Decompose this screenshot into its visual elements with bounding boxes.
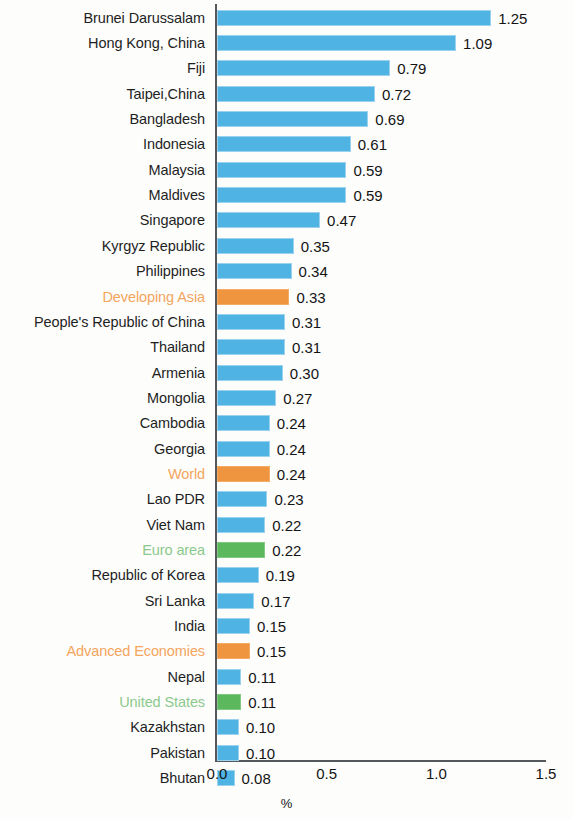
- bar: [217, 390, 276, 406]
- bar: [217, 212, 320, 228]
- chart-row: United States0.11: [0, 689, 573, 714]
- bar: [217, 643, 250, 659]
- bar-value-label: 0.59: [353, 188, 382, 203]
- bar-value-label: 0.17: [261, 593, 290, 608]
- category-label: Sri Lanka: [145, 593, 205, 608]
- chart-row: Brunei Darussalam1.25: [0, 5, 573, 30]
- category-label: People's Republic of China: [34, 315, 205, 330]
- bar: [217, 35, 456, 51]
- category-label: Republic of Korea: [91, 568, 205, 583]
- bar: [217, 441, 270, 457]
- category-label: Cambodia: [140, 416, 205, 431]
- bar: [217, 263, 292, 279]
- bar-value-label: 0.72: [382, 86, 411, 101]
- bar-value-label: 0.19: [266, 568, 295, 583]
- chart-row: Indonesia0.61: [0, 132, 573, 157]
- bar-value-label: 0.33: [296, 289, 325, 304]
- category-label: United States: [119, 695, 205, 710]
- chart-row: Armenia0.30: [0, 360, 573, 385]
- bar: [217, 86, 375, 102]
- bar-value-label: 0.47: [327, 213, 356, 228]
- bar-value-label: 0.15: [257, 619, 286, 634]
- bar: [217, 111, 368, 127]
- bar-value-label: 0.69: [375, 112, 404, 127]
- category-label: Thailand: [150, 340, 205, 355]
- bar-value-label: 0.22: [272, 543, 301, 558]
- category-label: Brunei Darussalam: [83, 10, 205, 25]
- bar: [217, 669, 241, 685]
- bar-value-label: 0.11: [248, 669, 276, 684]
- bar: [217, 719, 239, 735]
- category-label: Kyrgyz Republic: [102, 239, 205, 254]
- bar-value-label: 0.24: [277, 416, 306, 431]
- category-label: Nepal: [168, 670, 205, 685]
- bar: [217, 694, 241, 710]
- bar: [217, 10, 491, 26]
- bar: [217, 618, 250, 634]
- bar: [217, 187, 346, 203]
- bar-value-label: 0.27: [283, 390, 312, 405]
- bar-value-label: 0.10: [246, 720, 275, 735]
- chart-row: Euro area0.22: [0, 537, 573, 562]
- category-label: Pakistan: [150, 746, 205, 761]
- bar: [217, 593, 254, 609]
- category-label: Euro area: [142, 543, 205, 558]
- bar: [217, 238, 294, 254]
- category-label: Viet Nam: [146, 517, 205, 532]
- bar: [217, 365, 283, 381]
- category-label: Kazakhstan: [130, 720, 205, 735]
- bar-value-label: 0.31: [292, 340, 321, 355]
- chart-row: Maldives0.59: [0, 182, 573, 207]
- category-label: Armenia: [152, 365, 205, 380]
- chart-row: Taipei,China0.72: [0, 81, 573, 106]
- chart-row: Philippines0.34: [0, 259, 573, 284]
- bar-value-label: 0.15: [257, 644, 286, 659]
- category-label: Taipei,China: [126, 86, 205, 101]
- bar-value-label: 0.59: [353, 162, 382, 177]
- bar-value-label: 0.24: [277, 466, 306, 481]
- bar-value-label: 0.08: [242, 771, 271, 786]
- category-label: Maldives: [149, 188, 205, 203]
- category-label: Mongolia: [147, 391, 205, 406]
- bar-value-label: 0.22: [272, 517, 301, 532]
- bar-value-label: 0.31: [292, 314, 321, 329]
- x-axis-tick: 1.0: [426, 766, 447, 781]
- bar: [217, 314, 285, 330]
- plot-area: Brunei Darussalam1.25Hong Kong, China1.0…: [0, 0, 573, 762]
- chart-row: Viet Nam0.22: [0, 512, 573, 537]
- category-label: Indonesia: [143, 137, 205, 152]
- chart-row: Fiji0.79: [0, 56, 573, 81]
- bar-value-label: 1.09: [463, 36, 492, 51]
- chart-row: Singapore0.47: [0, 208, 573, 233]
- chart-row: Pakistan0.10: [0, 740, 573, 765]
- x-axis-unit-label: %: [0, 796, 573, 811]
- bar: [217, 415, 270, 431]
- bar: [217, 466, 270, 482]
- bar-value-label: 0.11: [248, 695, 276, 710]
- bar-value-label: 1.25: [498, 10, 527, 25]
- category-label: Developing Asia: [103, 289, 206, 304]
- bar-value-label: 0.23: [274, 492, 303, 507]
- bar: [217, 567, 259, 583]
- chart-row: People's Republic of China0.31: [0, 309, 573, 334]
- bar-value-label: 0.79: [397, 61, 426, 76]
- bar: [217, 60, 390, 76]
- x-axis-tick: 0.5: [316, 766, 337, 781]
- category-label: India: [174, 619, 205, 634]
- chart-row: Lao PDR0.23: [0, 487, 573, 512]
- chart-row: Mongolia0.27: [0, 385, 573, 410]
- chart-row: Bhutan0.08: [0, 766, 573, 791]
- bar: [217, 289, 289, 305]
- bar-chart: Brunei Darussalam1.25Hong Kong, China1.0…: [0, 0, 573, 819]
- chart-row: Developing Asia0.33: [0, 284, 573, 309]
- chart-row: Republic of Korea0.19: [0, 563, 573, 588]
- chart-row: Kyrgyz Republic0.35: [0, 233, 573, 258]
- bar-value-label: 0.10: [246, 745, 275, 760]
- category-label: Malaysia: [149, 163, 205, 178]
- chart-row: Bangladesh0.69: [0, 106, 573, 131]
- category-label: Bhutan: [160, 771, 205, 786]
- bar-value-label: 0.61: [358, 137, 387, 152]
- category-label: Lao PDR: [147, 492, 205, 507]
- chart-row: Advanced Economies0.15: [0, 639, 573, 664]
- bar: [217, 517, 265, 533]
